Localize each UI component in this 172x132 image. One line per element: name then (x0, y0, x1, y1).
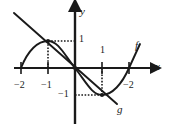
plot-canvas (0, 0, 172, 132)
point-local-min (100, 93, 104, 97)
point-origin (73, 66, 77, 70)
x-tick-label-pos-one: 1 (100, 45, 105, 55)
curve-label-g: g (117, 104, 123, 115)
x-tick-label-neg-one: −1 (41, 80, 52, 90)
y-tick-label-neg-one: −1 (58, 89, 69, 99)
point-local-max (46, 39, 50, 43)
y-axis-label: y (80, 6, 85, 17)
x-tick-label-neg-two: −2 (14, 80, 25, 90)
math-figure: x y f g −2 −1 1 −2 1 −1 (0, 0, 172, 132)
curve-label-f: f (135, 40, 138, 51)
x-tick-label-pos-two: −2 (123, 80, 134, 90)
x-axis-label: x (155, 61, 160, 72)
y-tick-label-pos-one: 1 (79, 34, 84, 44)
